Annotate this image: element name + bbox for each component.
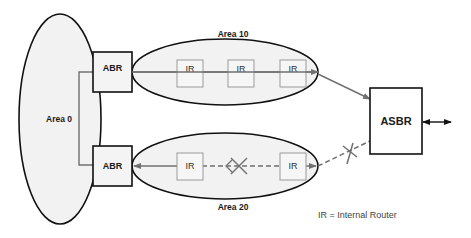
ir-bottom-2-label: IR <box>289 161 299 171</box>
area-20-to-asbr-path <box>318 141 370 166</box>
ir-bottom-2: IR <box>280 153 306 180</box>
area-0-label: Area 0 <box>46 114 72 124</box>
abr-top: ABR <box>93 52 132 92</box>
blocked-x-icon <box>343 143 357 164</box>
legend-text: IR = Internal Router <box>318 210 397 220</box>
area-20-label: Area 20 <box>218 202 249 212</box>
ospf-area-diagram: ABR ABR IR IR IR IR IR ASBR Area 0 Area … <box>0 0 471 238</box>
ir-top-2: IR <box>228 60 254 87</box>
area-10-to-asbr-path <box>318 74 370 99</box>
abr-bottom-label: ABR <box>103 161 123 171</box>
ir-bottom-1: IR <box>177 153 203 180</box>
asbr-label: ASBR <box>380 115 411 127</box>
area-10-label: Area 10 <box>218 29 249 39</box>
abr-bottom: ABR <box>93 146 132 186</box>
asbr: ASBR <box>370 88 422 154</box>
abr-top-label: ABR <box>103 63 123 73</box>
ir-bottom-1-label: IR <box>186 161 196 171</box>
ir-top-3: IR <box>280 60 306 87</box>
ir-top-1: IR <box>177 60 203 87</box>
